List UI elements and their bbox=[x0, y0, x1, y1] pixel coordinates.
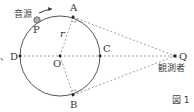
tangent-aq bbox=[73, 17, 175, 56]
label-radius: r bbox=[60, 28, 66, 39]
figure-caption: 図 1 bbox=[172, 95, 190, 105]
label-a: A bbox=[69, 2, 78, 13]
left-mark: 、 bbox=[0, 52, 9, 62]
arrowhead-icon bbox=[48, 7, 52, 11]
sound-source-p bbox=[34, 17, 40, 23]
point-b bbox=[72, 94, 75, 97]
point-d bbox=[19, 55, 22, 58]
label-source: 音源 bbox=[14, 8, 32, 19]
point-o bbox=[59, 55, 62, 58]
label-observer: 観測者 bbox=[158, 62, 185, 73]
label-b: B bbox=[70, 99, 77, 110]
label-c: C bbox=[103, 43, 111, 54]
point-a bbox=[72, 16, 75, 19]
point-c bbox=[99, 55, 102, 58]
doppler-diagram: A B C D O P Q r 音源 観測者 図 1 、 bbox=[0, 0, 194, 112]
tangent-bq bbox=[73, 56, 175, 95]
point-q bbox=[174, 55, 177, 58]
label-o: O bbox=[53, 58, 61, 69]
label-d: D bbox=[10, 51, 18, 62]
label-p: P bbox=[33, 24, 40, 35]
label-q: Q bbox=[179, 51, 187, 62]
radius-ob bbox=[60, 56, 73, 95]
